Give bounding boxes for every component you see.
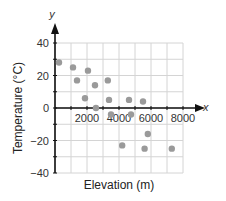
x-axis-label: Elevation (m) (84, 178, 155, 192)
data-point (145, 131, 151, 137)
y-tick-label: 40 (37, 37, 49, 49)
data-point (141, 145, 147, 151)
data-point (126, 97, 132, 103)
data-point (128, 111, 134, 117)
data-point (108, 111, 114, 117)
data-point (106, 97, 112, 103)
y-tick-label: −40 (30, 167, 49, 179)
data-point (169, 145, 175, 151)
data-point (70, 64, 76, 70)
y-axis-label: Temperature (°C) (11, 62, 25, 154)
x-axis-variable: x (202, 101, 209, 113)
x-tick-label: 2000 (75, 112, 99, 124)
y-tick-label: 0 (43, 102, 49, 114)
y-axis-variable: y (48, 8, 56, 20)
data-point (140, 98, 146, 104)
data-point (105, 77, 111, 83)
y-tick-label: 20 (37, 70, 49, 82)
x-tick-label: 6000 (139, 112, 163, 124)
data-point (82, 95, 88, 101)
data-points (56, 59, 175, 152)
data-point (56, 59, 62, 65)
x-tick-label: 8000 (171, 112, 195, 124)
data-point (85, 67, 91, 73)
scatter-chart: 200040006000800040200−20−40 Elevation (m… (0, 0, 226, 201)
data-point (74, 77, 80, 83)
y-tick-label: −20 (30, 135, 49, 147)
data-point (119, 142, 125, 148)
data-point (92, 82, 98, 88)
data-point (93, 105, 99, 111)
